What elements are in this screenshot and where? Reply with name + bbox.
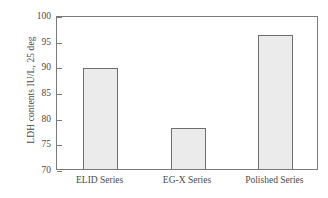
y-axis-tick-label: 85: [42, 89, 52, 99]
bar: [83, 68, 118, 169]
y-axis-tick-mark: [57, 145, 62, 146]
y-axis-tick-mark: [57, 120, 62, 121]
y-axis-tick-label: 95: [42, 38, 52, 48]
bar: [171, 128, 206, 169]
y-axis-tick-label: 90: [42, 64, 52, 74]
y-axis-tick-label: 100: [37, 12, 51, 22]
y-axis-title: LDH contents IU/L, 25 deg: [24, 10, 38, 170]
y-axis-tick-mark: [57, 68, 62, 69]
x-axis-tick-label: ELID Series: [76, 176, 123, 186]
y-axis-tick-mark: [57, 17, 62, 18]
bar: [258, 35, 293, 169]
y-axis-tick-label: 75: [42, 141, 52, 151]
x-axis-tick-label: Polished Series: [245, 176, 303, 186]
bar-chart-figure: LDH contents IU/L, 25 deg 70758085909510…: [0, 0, 328, 198]
y-axis-tick-label: 80: [42, 115, 52, 125]
plot-area: 707580859095100: [56, 16, 318, 170]
y-axis-tick-mark: [57, 94, 62, 95]
y-axis-tick-mark: [57, 43, 62, 44]
y-axis-tick-label: 70: [42, 166, 52, 176]
y-axis-tick-mark: [57, 171, 62, 172]
x-axis-tick-label: EG-X Series: [163, 176, 211, 186]
